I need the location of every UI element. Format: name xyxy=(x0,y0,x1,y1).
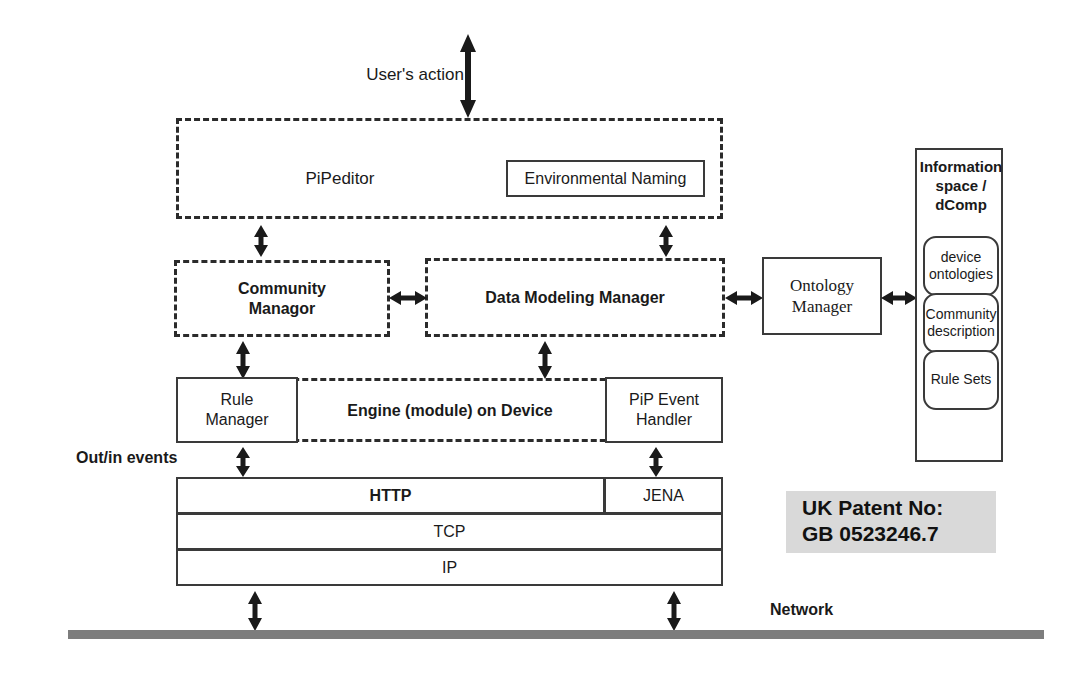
out-in-events-label: Out/in events xyxy=(76,448,226,468)
tcp-box: TCP xyxy=(176,513,723,550)
rule-manager-box: Rule Manager xyxy=(176,377,298,443)
rule-sets-box: Rule Sets xyxy=(923,350,999,410)
community-rulemanager-arrow xyxy=(232,340,254,380)
community-description-box: Community description xyxy=(923,293,999,353)
rulemanager-http-arrow xyxy=(232,446,254,478)
users-action-arrow xyxy=(455,32,481,120)
stack-network-arrow-right xyxy=(663,590,685,632)
jena-box: JENA xyxy=(604,477,723,514)
data-modeling-manager-box: Data Modeling Manager xyxy=(425,258,725,337)
ontology-manager-box: Ontology Manager xyxy=(762,257,882,335)
ontology-manager-label: Ontology Manager xyxy=(790,275,854,318)
information-space-title: Information space / dComp xyxy=(917,158,1005,214)
environmental-naming-box: Environmental Naming xyxy=(506,160,705,197)
device-ontologies-box: device ontologies xyxy=(923,236,999,296)
pipeditor-community-arrow xyxy=(250,224,272,258)
pip-event-handler-box: PiP Event Handler xyxy=(605,377,723,443)
architecture-diagram: User's action PiPeditor Environmental Na… xyxy=(0,0,1073,673)
network-bus xyxy=(68,630,1044,639)
information-space-panel: Information space / dComp device ontolog… xyxy=(915,148,1003,462)
pipeditor-label: PiPeditor xyxy=(190,168,490,189)
engine-on-device-label: Engine (module) on Device xyxy=(330,401,570,421)
ontology-infospace-arrow xyxy=(880,287,918,309)
community-manager-label: Community Managor xyxy=(238,279,326,319)
datamodeling-ontology-arrow xyxy=(724,287,764,309)
datamodeling-engine-arrow xyxy=(534,340,556,380)
network-label: Network xyxy=(770,600,890,620)
community-datamodeling-arrow xyxy=(388,287,428,309)
data-modeling-manager-label: Data Modeling Manager xyxy=(485,288,665,308)
http-box: HTTP xyxy=(176,477,605,514)
patent-line-2: GB 0523246.7 xyxy=(802,521,939,547)
community-manager-box: Community Managor xyxy=(174,260,390,337)
pipeventhandler-jena-arrow xyxy=(645,446,667,478)
pipeditor-datamodeling-arrow xyxy=(655,224,677,258)
patent-line-1: UK Patent No: xyxy=(802,495,943,521)
ip-box: IP xyxy=(176,549,723,586)
patent-badge: UK Patent No: GB 0523246.7 xyxy=(786,491,996,553)
stack-network-arrow-left xyxy=(244,590,266,632)
